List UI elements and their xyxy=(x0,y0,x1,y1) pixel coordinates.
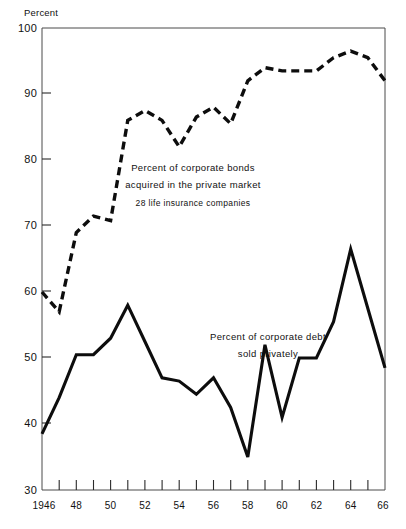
x-tick-label-1956: 56 xyxy=(208,500,220,511)
annotation-bonds-line3: 28 life insurance companies xyxy=(136,198,251,208)
annotation-bonds-line1: Percent of corporate bonds xyxy=(131,162,255,173)
annotation-debt-line2: sold privately xyxy=(238,348,298,359)
x-tick-label-1958: 58 xyxy=(242,500,254,511)
chart-frame xyxy=(42,28,385,490)
y-tick-label-50: 50 xyxy=(24,351,37,363)
y-tick-label-90: 90 xyxy=(24,87,37,99)
x-axis-ticks xyxy=(59,480,368,490)
annotation-debt-line1: Percent of corporate debt xyxy=(210,331,326,342)
x-tick-label-1950: 50 xyxy=(105,500,117,511)
x-tick-label-1948: 48 xyxy=(71,500,83,511)
x-tick-label-1946: 1946 xyxy=(32,500,55,511)
x-tick-label-1960: 60 xyxy=(276,500,288,511)
y-tick-label-30: 30 xyxy=(24,484,37,496)
line-chart: Percent 100 90 80 70 60 50 40 30 xyxy=(0,0,406,529)
annotation-bonds: Percent of corporate bonds acquired in t… xyxy=(125,162,261,208)
y-axis-title: Percent xyxy=(24,7,58,18)
chart-container: Percent 100 90 80 70 60 50 40 30 xyxy=(0,0,406,529)
series-line-corporate-debt-sold-privately xyxy=(42,249,385,457)
x-tick-label-1962: 62 xyxy=(311,500,323,511)
x-tick-label-1952: 52 xyxy=(139,500,151,511)
annotation-debt: Percent of corporate debt sold privately xyxy=(210,331,326,359)
x-tick-label-1954: 54 xyxy=(173,500,185,511)
x-tick-label-1966: 66 xyxy=(377,500,389,511)
y-tick-label-70: 70 xyxy=(24,219,37,231)
y-tick-label-100: 100 xyxy=(18,22,37,34)
x-tick-label-1964: 64 xyxy=(345,500,357,511)
y-tick-label-60: 60 xyxy=(24,285,37,297)
y-tick-label-80: 80 xyxy=(24,153,37,165)
annotation-bonds-line2: acquired in the private market xyxy=(125,179,261,190)
y-tick-label-40: 40 xyxy=(24,417,37,429)
x-axis-labels: 1946 48 50 52 54 56 58 60 62 64 66 xyxy=(32,500,389,511)
